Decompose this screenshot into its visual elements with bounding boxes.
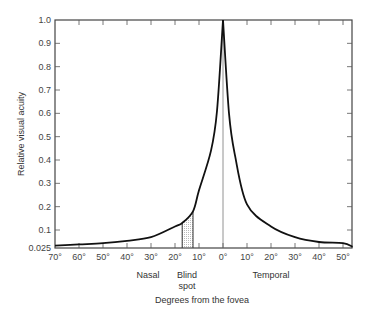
y-tick-label: 0.5 [38,132,51,142]
y-tick-label: 0.1 [38,225,51,235]
y-tick-label: 0.9 [38,38,51,48]
y-tick-label: 0.025 [28,243,51,253]
x-tick-label: 10° [192,252,206,262]
x-tick-label: 10° [240,252,254,262]
acuity-curve [55,20,353,247]
x-tick-label: 20° [264,252,278,262]
x-tick-label: 70° [48,252,62,262]
y-tick-label: 0.7 [38,85,51,95]
x-tick-label: 20° [168,252,182,262]
blind-spot-band [182,20,223,248]
x-tick-label: 60° [72,252,86,262]
x-region-temporal: Temporal [252,270,289,280]
x-tick-label: 50° [96,252,110,262]
plot-frame [55,20,352,248]
x-tick-label: 30° [288,252,302,262]
x-axis-title: Degrees from the fovea [155,295,249,305]
x-region-blind-spot: Blindspot [177,270,197,291]
y-tick-label: 0.6 [38,108,51,118]
x-tick-label: 40° [312,252,326,262]
y-axis-title: Relative visual acuity [16,91,26,176]
x-tick-label: 50° [336,252,350,262]
x-region-nasal: Nasal [136,270,159,280]
x-tick-label: 0° [219,252,228,262]
y-tick-label: 0.3 [38,178,51,188]
acuity-chart: 70°60°50°40°30°20°10°0°10°20°30°40°50° 0… [0,0,375,313]
y-tick-label: 1.0 [38,15,51,25]
y-tick-label: 0.8 [38,62,51,72]
x-axis-ticks: 70°60°50°40°30°20°10°0°10°20°30°40°50° [48,20,350,262]
x-tick-label: 40° [120,252,134,262]
y-tick-label: 0.2 [38,202,51,212]
x-tick-label: 30° [144,252,158,262]
y-tick-label: 0.4 [38,155,51,165]
